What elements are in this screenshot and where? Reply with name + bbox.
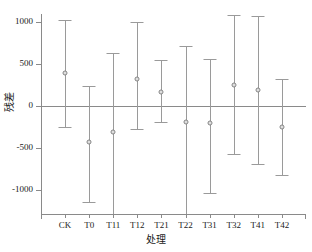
errorbar-cap-upper xyxy=(203,59,216,60)
y-tick-label: 500 xyxy=(20,59,34,68)
x-tick xyxy=(234,214,235,218)
errorbar-cap-lower xyxy=(59,127,72,128)
errorbar-stem xyxy=(186,46,187,214)
errorbar-cap-lower xyxy=(275,175,288,176)
errorbar-cap-upper xyxy=(59,20,72,21)
x-tick xyxy=(137,214,138,218)
data-point-t32 xyxy=(231,82,236,87)
y-tick-label: -1000 xyxy=(12,185,33,194)
x-tick-label-t31: T31 xyxy=(202,220,217,230)
errorbar-cap-upper xyxy=(83,86,96,87)
y-tick-label: -500 xyxy=(17,143,34,152)
data-point-t21 xyxy=(159,90,164,95)
y-axis-title: 残差 xyxy=(4,74,15,130)
x-tick xyxy=(89,214,90,218)
x-tick-label-t12: T12 xyxy=(130,220,145,230)
x-tick xyxy=(210,214,211,218)
x-tick xyxy=(258,214,259,218)
errorbar-cap-upper xyxy=(275,79,288,80)
x-tick-label-t11: T11 xyxy=(106,220,120,230)
x-tick xyxy=(65,214,66,218)
data-point-t11 xyxy=(111,130,116,135)
errorbar-cap-upper xyxy=(227,15,240,16)
x-tick-label-t32: T32 xyxy=(226,220,241,230)
errorbar-cap-upper xyxy=(107,53,120,54)
x-tick-label-t41: T41 xyxy=(251,220,266,230)
data-point-t31 xyxy=(207,121,212,126)
data-point-t41 xyxy=(255,87,260,92)
x-tick-label-ck: CK xyxy=(59,220,72,230)
x-axis-title: 处理 xyxy=(0,234,312,245)
y-tick-label: 1000 xyxy=(15,17,33,26)
x-tick-label-t21: T21 xyxy=(154,220,169,230)
errorbar-cap-lower xyxy=(155,122,168,123)
errorbar-cap-upper xyxy=(251,16,264,17)
errorbar-stem xyxy=(210,59,211,193)
data-point-t12 xyxy=(135,76,140,81)
x-tick xyxy=(161,214,162,218)
y-tick-label: 0 xyxy=(29,101,34,110)
x-tick-label-t22: T22 xyxy=(178,220,193,230)
plot-area xyxy=(41,14,306,214)
errorbar-cap-lower xyxy=(203,193,216,194)
x-axis-end-tick xyxy=(305,214,306,219)
x-tick-label-t42: T42 xyxy=(275,220,290,230)
errorbar-cap-upper xyxy=(179,46,192,47)
residual-errorbar-chart: 10005000-500-1000 CKT0T11T12T21T22T31T32… xyxy=(0,0,312,252)
data-point-t0 xyxy=(87,139,92,144)
errorbar-cap-upper xyxy=(155,60,168,61)
errorbar-cap-lower xyxy=(131,129,144,130)
errorbar-stem xyxy=(89,86,90,202)
x-tick xyxy=(186,214,187,218)
x-tick xyxy=(113,214,114,218)
errorbar-cap-lower xyxy=(83,202,96,203)
x-axis-line xyxy=(41,214,306,215)
data-point-ck xyxy=(63,70,68,75)
x-tick xyxy=(282,214,283,218)
x-tick-label-t0: T0 xyxy=(84,220,94,230)
data-point-t22 xyxy=(183,119,188,124)
errorbar-cap-lower xyxy=(227,154,240,155)
data-point-t42 xyxy=(279,125,284,130)
errorbar-cap-lower xyxy=(251,164,264,165)
errorbar-cap-upper xyxy=(131,22,144,23)
